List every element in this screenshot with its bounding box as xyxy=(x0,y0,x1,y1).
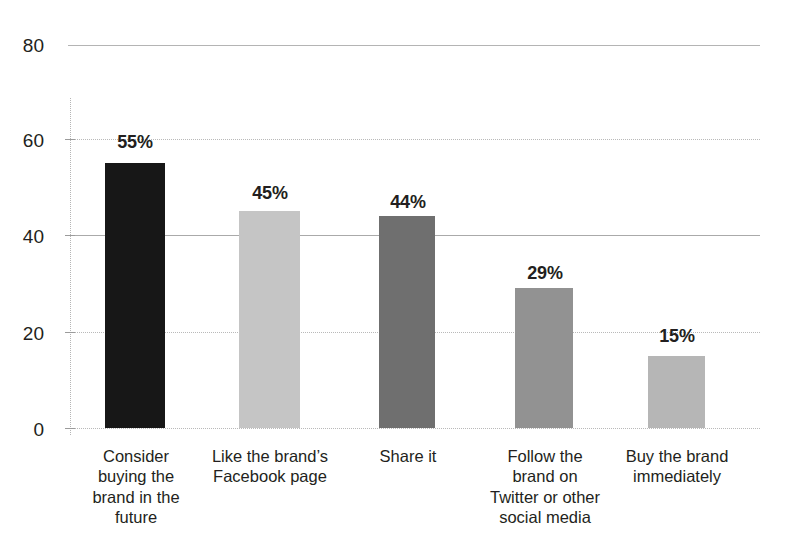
y-axis-label-0: 0 xyxy=(0,420,44,439)
plot-area: 80 60 40 20 0 55% 45% 44% 29% 15% Consid… xyxy=(0,0,785,555)
bar-follow-twitter[interactable] xyxy=(515,288,573,428)
y-axis-tick-0 xyxy=(65,428,75,429)
category-line: brand in the xyxy=(61,487,211,507)
category-line: immediately xyxy=(597,466,757,486)
y-axis-label-80: 80 xyxy=(0,36,44,55)
value-label-share-it: 44% xyxy=(390,193,425,211)
value-label-consider-buying: 55% xyxy=(117,133,152,151)
category-label-like-facebook-page: Like the brand’s Facebook page xyxy=(185,446,355,487)
category-line: Twitter or other xyxy=(465,487,625,507)
category-label-buy-immediately: Buy the brand immediately xyxy=(597,446,757,487)
value-label-buy-immediately: 15% xyxy=(659,327,694,345)
y-axis-tick-60 xyxy=(65,139,75,140)
y-axis-tick-20 xyxy=(65,332,75,333)
y-axis-label-20: 20 xyxy=(0,324,44,343)
category-line: Buy the brand xyxy=(597,446,757,466)
y-axis-label-40: 40 xyxy=(0,227,44,246)
gridline-60 xyxy=(68,139,760,140)
bar-share-it[interactable] xyxy=(379,216,435,428)
y-axis-label-60: 60 xyxy=(0,131,44,150)
gridline-80 xyxy=(68,45,760,46)
category-line: Share it xyxy=(343,446,473,466)
bar-like-facebook-page[interactable] xyxy=(239,211,300,428)
y-axis-line xyxy=(70,98,71,435)
category-label-share-it: Share it xyxy=(343,446,473,466)
category-line: Facebook page xyxy=(185,466,355,486)
category-line: social media xyxy=(465,507,625,527)
bar-consider-buying[interactable] xyxy=(105,163,165,428)
category-line: Like the brand’s xyxy=(185,446,355,466)
value-label-follow-twitter: 29% xyxy=(527,264,562,282)
category-line: future xyxy=(61,507,211,527)
bar-chart: 80 60 40 20 0 55% 45% 44% 29% 15% Consid… xyxy=(0,0,785,555)
gridline-0 xyxy=(68,428,760,429)
bar-buy-immediately[interactable] xyxy=(648,356,705,428)
value-label-like-facebook-page: 45% xyxy=(252,184,287,202)
y-axis-tick-40 xyxy=(65,235,75,236)
